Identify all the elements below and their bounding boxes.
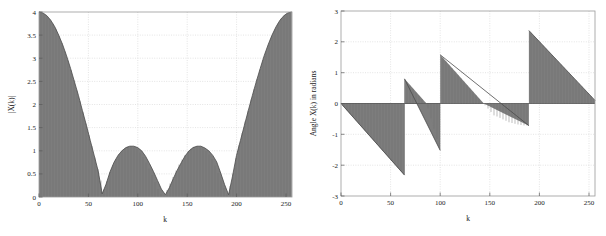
- phase-panel: 3 2 1 0 -1 -2 -3 0 50 100 150 200 250 k …: [303, 0, 606, 236]
- magnitude-ylabel: |X(k)|: [7, 96, 16, 113]
- magnitude-xtick-0: 0: [37, 200, 41, 208]
- magnitude-plot-svg: 0 0.5 1 1.5 2 2.5 3 3.5 4 0 50 100 150 2…: [0, 0, 303, 236]
- magnitude-panel: 0 0.5 1 1.5 2 2.5 3 3.5 4 0 50 100 150 2…: [0, 0, 303, 236]
- phase-xtick-4: 200: [534, 199, 545, 207]
- magnitude-ytick-3: 1.5: [27, 124, 36, 132]
- magnitude-ytick-7: 3.5: [27, 32, 36, 40]
- phase-xlabel: k: [466, 214, 470, 223]
- magnitude-ytick-6: 3: [33, 55, 37, 63]
- magnitude-ytick-0: 0: [33, 194, 37, 202]
- magnitude-xlabel: k: [163, 215, 167, 224]
- magnitude-ytick-5: 2.5: [27, 78, 36, 86]
- phase-ytick-2: 1: [335, 69, 339, 77]
- phase-ytick-0: 3: [335, 8, 339, 16]
- phase-plot-svg: 3 2 1 0 -1 -2 -3 0 50 100 150 200 250 k …: [303, 0, 606, 236]
- magnitude-xtick-2: 100: [133, 200, 144, 208]
- phase-ytick-1: 2: [335, 38, 339, 46]
- figure-canvas: 0 0.5 1 1.5 2 2.5 3 3.5 4 0 50 100 150 2…: [0, 0, 606, 236]
- magnitude-ytick-8: 4: [33, 9, 37, 17]
- magnitude-ytick-2: 1: [33, 147, 37, 155]
- phase-xtick-3: 150: [485, 199, 496, 207]
- phase-xtick-2: 100: [435, 199, 446, 207]
- magnitude-ytick-1: 0.5: [27, 170, 36, 178]
- phase-xtick-5: 250: [584, 199, 595, 207]
- magnitude-xtick-4: 200: [231, 200, 242, 208]
- phase-ytick-5: -2: [332, 162, 338, 170]
- phase-ytick-3: 0: [335, 100, 339, 108]
- phase-ytick-6: -3: [332, 193, 338, 201]
- phase-ylabel: Angle X(k) in radians: [309, 71, 318, 137]
- phase-xtick-0: 0: [339, 199, 343, 207]
- phase-ytick-4: -1: [332, 131, 338, 139]
- magnitude-ytick-4: 2: [33, 101, 37, 109]
- magnitude-xtick-5: 250: [281, 200, 292, 208]
- magnitude-xtick-3: 150: [182, 200, 193, 208]
- magnitude-xtick-1: 50: [85, 200, 93, 208]
- phase-xtick-1: 50: [387, 199, 395, 207]
